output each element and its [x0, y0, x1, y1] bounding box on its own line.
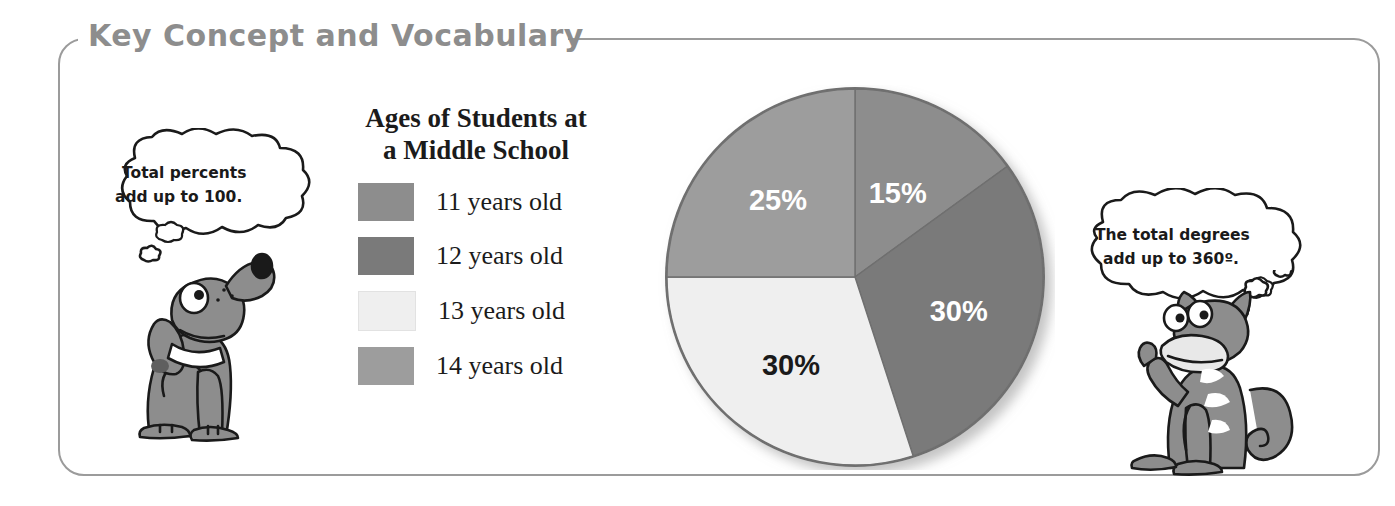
bubble-left-line-2: add up to 100.	[115, 188, 242, 206]
chart-title: Ages of Students at a Middle School	[336, 103, 616, 167]
legend-swatch-12	[358, 237, 414, 275]
cat-thought-puff-small	[1274, 270, 1292, 277]
legend-label-14: 14 years old	[436, 351, 563, 381]
dog-pupil	[194, 290, 204, 300]
cat-illustration	[1122, 270, 1332, 485]
pie-slice-group	[667, 89, 1043, 465]
dog-freckle	[216, 298, 220, 302]
dog-paw-rear	[140, 425, 191, 439]
legend-swatch-11	[358, 183, 414, 221]
cat-pupil-left	[1176, 314, 1185, 323]
pie-label-14-years-old: 25%	[749, 184, 807, 216]
pie-chart-svg: 15%30%30%25%	[655, 85, 1055, 470]
cat-front-leg	[1185, 404, 1210, 469]
pie-chart: 15%30%30%25%	[655, 85, 1055, 470]
cat-pupil-right	[1200, 311, 1209, 320]
legend-item-14: 14 years old	[336, 347, 626, 385]
dog-paw-front	[190, 427, 238, 441]
legend-label-11: 11 years old	[436, 187, 562, 217]
dog-freckle	[230, 294, 234, 298]
chart-legend: Ages of Students at a Middle School 11 y…	[336, 103, 626, 385]
panel-title: Key Concept and Vocabulary	[88, 18, 584, 53]
dog-spot	[151, 359, 169, 373]
legend-label-13: 13 years old	[438, 296, 565, 326]
legend-swatch-13	[358, 291, 416, 331]
legend-item-11: 11 years old	[336, 183, 626, 221]
cat-paw-rear	[1132, 455, 1177, 469]
dog-freckle	[222, 288, 226, 292]
cat-muzzle	[1161, 335, 1228, 372]
pie-label-12-years-old: 30%	[930, 295, 988, 327]
dog-illustration	[120, 238, 320, 448]
chart-title-line-1: Ages of Students at	[336, 103, 616, 135]
bubble-right-line-2: add up to 360º.	[1103, 250, 1239, 268]
bubble-right-line-1: The total degrees	[1095, 226, 1250, 244]
cat-paw-front	[1174, 461, 1223, 475]
legend-swatch-14	[358, 347, 414, 385]
pie-label-11-years-old: 15%	[869, 177, 927, 209]
dog-thought-puff	[140, 246, 160, 262]
bubble-left-line-1: Total percents	[122, 164, 246, 182]
chart-title-line-2: a Middle School	[336, 135, 616, 167]
dog-svg	[120, 238, 320, 448]
cat-tail	[1246, 388, 1292, 460]
pie-label-13-years-old: 30%	[762, 349, 820, 381]
cat-svg	[1122, 270, 1332, 485]
legend-label-12: 12 years old	[436, 241, 563, 271]
dog-nose	[252, 254, 272, 278]
legend-item-12: 12 years old	[336, 237, 626, 275]
legend-item-13: 13 years old	[336, 291, 626, 331]
dog-eye	[180, 283, 208, 313]
